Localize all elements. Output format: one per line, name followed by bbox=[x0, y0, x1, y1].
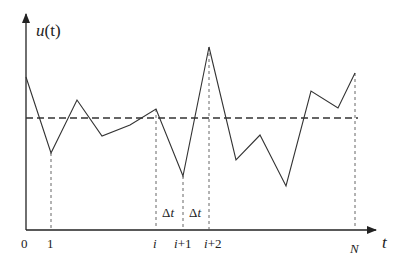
signal-diagram: u(t) t 0 1 i i+1 i+2 N Δt Δt bbox=[0, 0, 405, 263]
tick-label-1: 1 bbox=[47, 236, 54, 251]
tick-label-i-plus-2: i+2 bbox=[204, 236, 221, 251]
tick-label-i-plus-1: i+1 bbox=[174, 236, 191, 251]
signal-line bbox=[26, 47, 355, 186]
x-axis-label: t bbox=[382, 233, 388, 252]
tick-label-N: N bbox=[349, 241, 360, 256]
y-axis-label: u(t) bbox=[36, 21, 61, 40]
delta-t-label-2: Δt bbox=[189, 205, 201, 220]
origin-label: 0 bbox=[21, 236, 28, 251]
tick-label-i: i bbox=[153, 236, 157, 251]
delta-t-label-1: Δt bbox=[162, 205, 174, 220]
